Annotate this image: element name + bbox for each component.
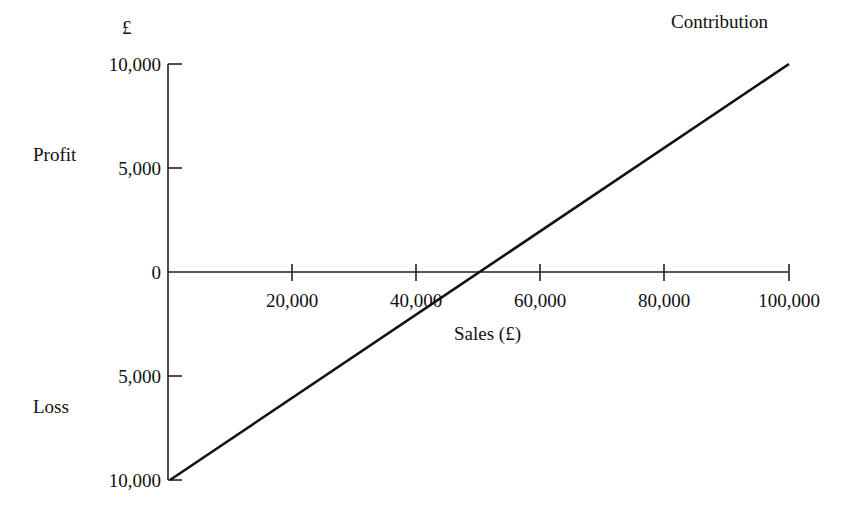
y-tick-label: 10,000	[61, 55, 161, 74]
x-tick-label: 20,000	[237, 291, 347, 310]
x-tick-label: 80,000	[609, 291, 719, 310]
x-axis-title: Sales (£)	[454, 324, 521, 343]
x-tick-label: 40,000	[361, 291, 471, 310]
y-axis-currency-label: £	[122, 18, 132, 37]
contribution-series-label: Contribution	[671, 12, 768, 31]
x-tick-label: 100,000	[734, 291, 844, 310]
loss-region-label: Loss	[33, 397, 69, 416]
x-tick-label: 60,000	[485, 291, 595, 310]
contribution-chart: £ 10,000 5,000 0 5,000 10,000 Profit Los…	[0, 0, 848, 515]
chart-canvas	[0, 0, 848, 515]
y-tick-label: 5,000	[61, 367, 161, 386]
y-tick-label: 0	[61, 263, 161, 282]
profit-region-label: Profit	[33, 145, 76, 164]
y-tick-label: 10,000	[61, 471, 161, 490]
